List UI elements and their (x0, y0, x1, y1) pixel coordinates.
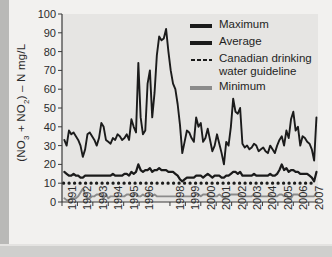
y-axis-title-text: (NO3 + NO2) – N mg/L (15, 44, 27, 162)
legend-swatch-average-icon (190, 35, 212, 50)
x-axis-tick-label: 2002 (236, 186, 248, 210)
x-axis-tick-label: 2007 (313, 186, 325, 210)
x-axis-tick-label: 1994 (112, 186, 124, 210)
chart-legend: MaximumAverageCanadian drinking water gu… (190, 18, 332, 97)
legend-swatch-guideline-icon (190, 52, 212, 67)
x-axis-tick-label: 2005 (282, 186, 294, 210)
legend-item-label: Minimum (219, 80, 266, 93)
legend-item: Canadian drinking water guideline (190, 52, 332, 78)
x-axis-tick-label: 1996 (143, 186, 155, 210)
legend-item-label: Canadian drinking water guideline (219, 52, 332, 78)
legend-swatch-minimum-icon (190, 80, 212, 95)
legend-item: Average (190, 35, 332, 50)
x-axis-tick-label: 1991 (66, 186, 78, 210)
x-axis-tick-label: 2003 (251, 186, 263, 210)
legend-swatch-maximum-icon (190, 18, 212, 33)
legend-item: Maximum (190, 18, 332, 33)
legend-item: Minimum (190, 80, 332, 95)
x-axis-tick-label: 2004 (266, 186, 278, 210)
legend-swatch-bar (190, 58, 212, 62)
legend-item-label: Maximum (219, 18, 269, 31)
x-axis-tick-label: 2001 (220, 186, 232, 210)
x-axis-tick-label: 1992 (81, 186, 93, 210)
x-axis-tick-label: 1999 (189, 186, 201, 210)
x-axis-tick-label: 2000 (205, 186, 217, 210)
x-axis-tick-label: 1993 (97, 186, 109, 210)
legend-swatch-bar (190, 41, 212, 45)
legend-swatch-bar (190, 86, 212, 90)
x-axis-tick-label: 1995 (128, 186, 140, 210)
chart-figure: 0102030405060708090100 19911992199319941… (0, 0, 332, 257)
x-axis-tick-label: 2006 (297, 186, 309, 210)
bottom-gray-band (0, 246, 332, 257)
legend-item-label: Average (219, 35, 262, 48)
x-axis-tick-label: 1998 (174, 186, 186, 210)
legend-swatch-bar (190, 24, 212, 28)
y-axis-title: (NO3 + NO2) – N mg/L (15, 18, 30, 188)
